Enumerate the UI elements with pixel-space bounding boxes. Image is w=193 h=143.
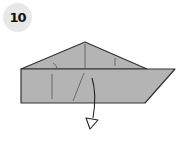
paper-body	[21, 69, 175, 103]
origami-diagram	[0, 0, 193, 143]
triangle-flap	[21, 42, 147, 69]
arrowhead-icon	[86, 118, 98, 129]
